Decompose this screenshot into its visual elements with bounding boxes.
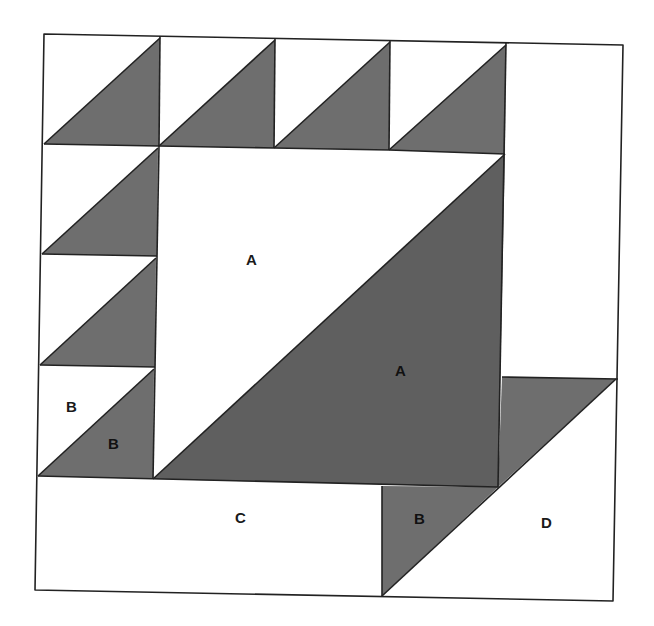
label-a-dark: A xyxy=(395,362,406,379)
label-b-dark-bottom: B xyxy=(414,510,425,527)
label-b-dark-left: B xyxy=(108,435,119,452)
label-c: C xyxy=(235,509,246,526)
quilt-block-diagram: A A B B C B D xyxy=(0,0,654,626)
label-a-light: A xyxy=(246,251,257,268)
label-d: D xyxy=(541,514,552,531)
label-b-light: B xyxy=(66,398,77,415)
